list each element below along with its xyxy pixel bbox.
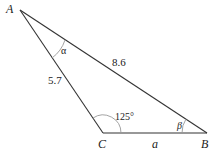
angle-label-c: 125° bbox=[115, 111, 134, 122]
angle-label-b: β bbox=[176, 120, 182, 131]
angle-label-a: α bbox=[61, 45, 67, 56]
side-ac bbox=[20, 10, 103, 133]
vertex-label-a: A bbox=[5, 2, 14, 16]
side-label-cb: a bbox=[152, 137, 158, 151]
vertex-label-c: C bbox=[98, 137, 107, 151]
angle-arc-b bbox=[182, 119, 186, 133]
side-label-ac: 5.7 bbox=[48, 74, 62, 86]
side-ab bbox=[20, 10, 207, 133]
side-label-ab: 8.6 bbox=[112, 56, 126, 68]
vertex-label-b: B bbox=[201, 137, 209, 151]
triangle-diagram: A C B 5.7 8.6 a α 125° β bbox=[0, 0, 210, 153]
